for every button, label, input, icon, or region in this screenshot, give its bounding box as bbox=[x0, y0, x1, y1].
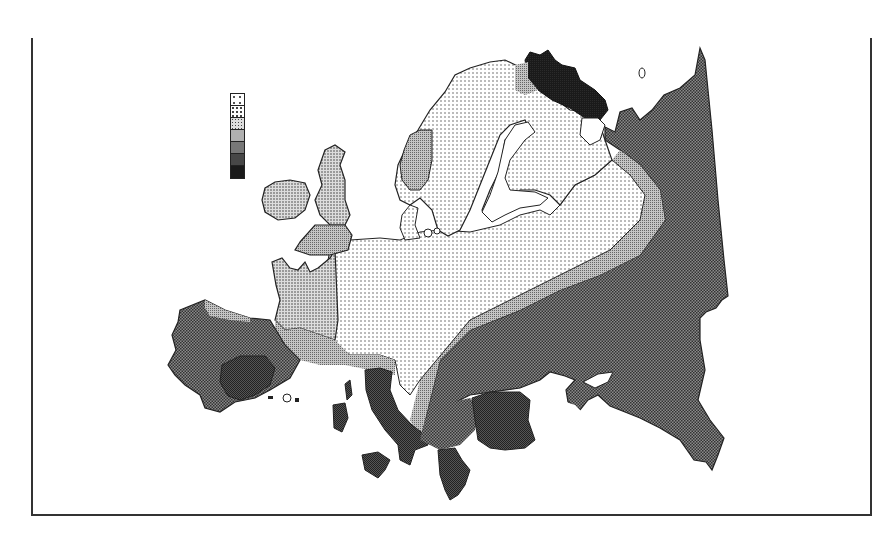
island-kolguyev bbox=[639, 68, 645, 78]
legend-swatch-4 bbox=[231, 130, 244, 142]
region-southern-england bbox=[295, 225, 352, 255]
region-romania-bulgaria bbox=[472, 392, 535, 450]
region-balearic-small-2 bbox=[295, 398, 299, 402]
region-western-norway bbox=[400, 130, 432, 190]
region-sardinia bbox=[333, 403, 348, 432]
region-france bbox=[272, 250, 338, 340]
map-legend bbox=[230, 93, 245, 179]
legend-swatch-5 bbox=[231, 142, 244, 154]
region-greece bbox=[438, 448, 470, 500]
island-baltic-1 bbox=[424, 229, 432, 237]
legend-swatch-3 bbox=[231, 118, 244, 130]
island-baltic-2 bbox=[434, 228, 440, 234]
legend-swatch-7 bbox=[231, 166, 244, 178]
legend-swatch-1 bbox=[231, 94, 244, 106]
region-ireland bbox=[262, 180, 310, 220]
region-balearic bbox=[283, 394, 291, 402]
legend-swatch-2 bbox=[231, 106, 244, 118]
region-great-britain-north bbox=[315, 145, 350, 225]
region-corsica bbox=[345, 380, 352, 400]
legend-swatch-6 bbox=[231, 154, 244, 166]
region-balearic-small bbox=[268, 396, 273, 399]
region-sicily bbox=[362, 452, 390, 478]
region-southern-spain bbox=[220, 356, 275, 400]
region-denmark bbox=[400, 205, 420, 240]
europe-map bbox=[0, 0, 896, 545]
